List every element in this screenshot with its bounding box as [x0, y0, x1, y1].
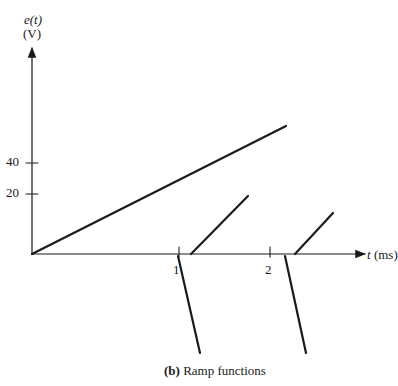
y-axis-label: e(t)	[24, 13, 42, 27]
ramp-line-5	[285, 256, 306, 353]
y-tick-label-20: 20	[6, 186, 19, 200]
x-tick-label-2: 2	[265, 263, 272, 277]
ramp-lines	[32, 126, 333, 353]
y-tick-label-40: 40	[6, 155, 19, 169]
ramp-line-4	[178, 256, 200, 353]
ramp-line-1	[32, 126, 286, 254]
caption-prefix: (b)	[164, 363, 180, 378]
y-axis-unit: (V)	[23, 27, 41, 41]
caption-text: Ramp functions	[183, 363, 266, 378]
x-tick-label-1: 1	[173, 263, 180, 277]
ramp-line-2	[191, 196, 248, 254]
axes	[32, 48, 365, 254]
figure-caption: (b) Ramp functions	[164, 364, 266, 378]
x-axis-label: t (ms)	[367, 248, 398, 262]
ramp-line-3	[295, 213, 333, 254]
